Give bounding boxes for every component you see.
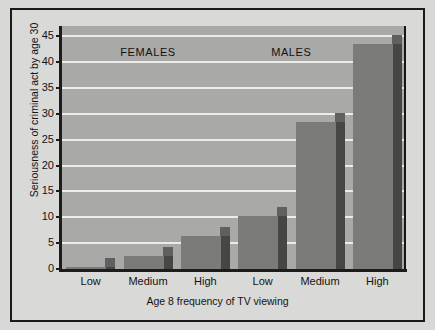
group-label-males: MALES [251, 46, 331, 58]
bar-top-face [392, 35, 402, 44]
y-axis-title: Seriousness of criminal act by age 30 [28, 0, 40, 220]
bar-side-face [393, 35, 402, 269]
bar-top-face [277, 207, 287, 216]
bar-top-face [335, 113, 345, 122]
y-axis-tick [56, 242, 62, 244]
bar-side-face [336, 113, 345, 269]
y-axis-tick [56, 268, 62, 270]
y-axis-tick [56, 35, 62, 37]
x-axis-line [59, 269, 407, 272]
x-axis-tick-label: High [337, 275, 417, 287]
y-axis-tick-label: 5 [30, 237, 54, 248]
y-axis-tick [56, 139, 62, 141]
y-axis-tick [56, 87, 62, 89]
bar [353, 44, 393, 269]
x-axis-title: Age 8 frequency of TV viewing [0, 295, 435, 307]
bar-top-face [163, 247, 173, 256]
bar-side-face [278, 207, 287, 269]
bar [66, 267, 106, 269]
bar [124, 256, 164, 269]
bar [296, 122, 336, 269]
bar [181, 236, 221, 269]
group-label-females: FEMALES [108, 46, 188, 58]
y-axis-tick [56, 61, 62, 63]
y-axis-tick [56, 190, 62, 192]
y-axis-tick [56, 113, 62, 115]
bar-top-face [220, 227, 230, 236]
gridline [62, 35, 404, 37]
y-axis-tick-label: 0 [30, 263, 54, 274]
y-axis-tick [56, 165, 62, 167]
bar-top-face [105, 258, 115, 267]
y-axis-tick [56, 216, 62, 218]
chart-figure: 051015202530354045 LowMediumHighLowMediu… [0, 0, 435, 330]
bar [238, 216, 278, 269]
